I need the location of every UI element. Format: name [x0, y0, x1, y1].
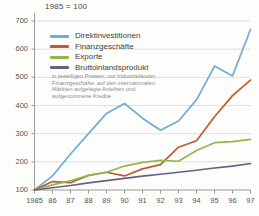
chart-footnote: in jeweiligen Preisen; nur Industrieländ… [52, 73, 164, 99]
legend-item-bruttoinlandsprodukt: Bruttoinlandsprodukt [50, 63, 148, 74]
series-line [35, 164, 251, 190]
y-axis-label: 600 [4, 44, 28, 53]
series-line [35, 139, 251, 190]
legend-label-exporte: Exporte [75, 52, 103, 63]
legend-label-direktinvestitionen: Direktinvestitionen [75, 31, 140, 42]
legend-label-bruttoinlandsprodukt: Bruttoinlandsprodukt [75, 63, 148, 74]
legend-swatch-bruttoinlandsprodukt [50, 66, 69, 69]
legend-item-finanzgeschaefte: Finanzgeschäfte [50, 42, 148, 53]
y-axis-label: 400 [4, 101, 28, 110]
legend-swatch-direktinvestitionen [50, 35, 69, 38]
y-axis-label: 100 [4, 185, 28, 194]
y-axis-label: 500 [4, 72, 28, 81]
legend-label-finanzgeschaefte: Finanzgeschäfte [75, 42, 134, 53]
legend-swatch-finanzgeschaefte [50, 45, 69, 48]
y-axis-label: 700 [4, 16, 28, 25]
legend-item-exporte: Exporte [50, 52, 148, 63]
y-axis-label: 300 [4, 129, 28, 138]
legend-swatch-exporte [50, 56, 69, 59]
y-axis-label: 200 [4, 157, 28, 166]
legend-item-direktinvestitionen: Direktinvestitionen [50, 31, 148, 42]
legend: Direktinvestitionen Finanzgeschäfte Expo… [50, 31, 148, 73]
chart-figure: 1985 = 100 100200300400500600700 1985868… [0, 0, 258, 216]
x-axis-label: 97 [239, 196, 259, 205]
